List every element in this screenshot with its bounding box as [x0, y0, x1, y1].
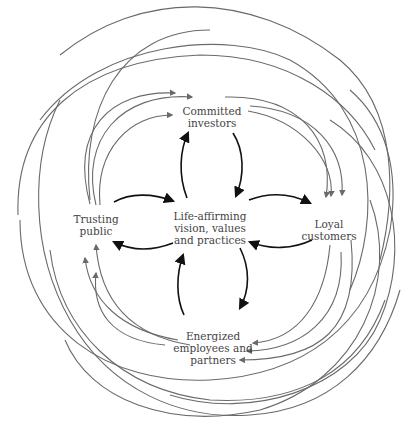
node-employees-line-3: partners [173, 354, 252, 366]
node-customers: Loyal customers [301, 218, 356, 242]
node-employees-line-1: Energized [173, 330, 252, 342]
node-center-line-1: Life-affirming [174, 210, 247, 222]
arrow-center-to-employees [240, 248, 248, 308]
arrow-investors-to-customers-3 [248, 111, 331, 196]
arrow-investors-to-customers-2 [250, 106, 342, 195]
node-public-line-1: Trusting [73, 213, 118, 225]
arrow-customers-to-employees-3 [240, 240, 352, 360]
node-center: Life-affirming vision, values and practi… [174, 210, 247, 246]
node-center-line-2: vision, values [174, 222, 247, 234]
outer-loop-3 [40, 44, 368, 290]
arrow-public-to-investors-3 [100, 115, 172, 205]
arrow-customers-to-employees-1 [253, 245, 330, 343]
node-employees-line-2: employees and [173, 342, 252, 354]
node-investors-line-1: Committed [182, 105, 241, 117]
arrow-center-to-customers [249, 195, 310, 203]
node-center-line-3: and practices [174, 234, 247, 246]
arrow-employees-to-center [178, 255, 184, 315]
node-employees: Energized employees and partners [173, 330, 252, 366]
arrow-investors-to-center [233, 133, 242, 196]
arrow-center-to-public [114, 242, 173, 249]
node-customers-line-2: customers [301, 230, 356, 242]
arrow-public-to-center [114, 195, 173, 202]
node-investors-line-2: investors [182, 117, 241, 129]
arrow-employees-to-public-2 [85, 258, 178, 340]
outer-loop-7 [39, 100, 400, 416]
node-customers-line-1: Loyal [301, 218, 356, 230]
arrow-center-to-investors [181, 133, 188, 198]
node-public-line-2: public [73, 225, 118, 237]
node-public: Trusting public [73, 213, 118, 237]
node-investors: Committed investors [182, 105, 241, 129]
